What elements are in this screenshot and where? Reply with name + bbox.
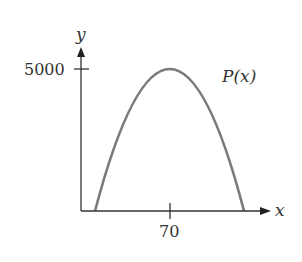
profit-curve bbox=[95, 69, 244, 211]
x-axis-label: x bbox=[275, 200, 285, 220]
y-axis-arrow-icon bbox=[77, 47, 85, 57]
y-tick-label: 5000 bbox=[24, 60, 65, 79]
x-axis-arrow-icon bbox=[260, 207, 271, 215]
y-axis-label: y bbox=[75, 24, 86, 44]
x-tick-label: 70 bbox=[159, 222, 179, 241]
curve-label: P(x) bbox=[221, 66, 256, 86]
chart: y 5000 70 x P(x) bbox=[0, 0, 302, 262]
